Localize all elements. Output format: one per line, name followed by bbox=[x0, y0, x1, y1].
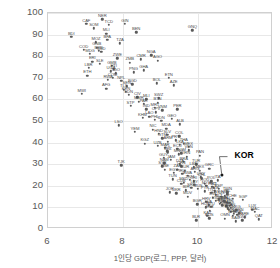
scatter-chart: 전체 고용 중 취약고용 비중(%) 010203040506070809010… bbox=[0, 0, 280, 268]
x-tick-label: 8 bbox=[107, 236, 137, 246]
x-axis-title: 1인당 GDP(로그, PPP, 달러) bbox=[47, 252, 273, 263]
x-tick-label: 6 bbox=[32, 236, 62, 246]
kor-annotation: KOR bbox=[235, 150, 254, 160]
x-tick-label: 10 bbox=[182, 236, 212, 246]
x-tick-label: 12 bbox=[257, 236, 280, 246]
x-axis-ticks: 681012 bbox=[0, 0, 280, 268]
